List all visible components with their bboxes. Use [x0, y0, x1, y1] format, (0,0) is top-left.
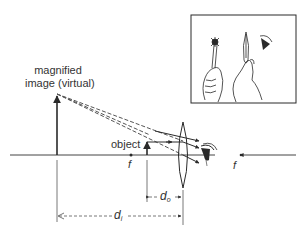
real-rays	[147, 131, 199, 163]
d-i-main: d	[114, 208, 121, 222]
focal-point-right	[240, 154, 243, 157]
focal-point-left-label: f	[128, 159, 131, 170]
magnifying-glass-ray-diagram	[0, 0, 304, 236]
d-o-label: do	[160, 190, 171, 203]
d-i-sub: i	[121, 215, 123, 222]
d-o-main: d	[160, 189, 167, 203]
focal-point-left	[130, 154, 133, 157]
focal-point-right-label: f	[233, 160, 236, 171]
d-i-label: di	[114, 209, 122, 222]
d-o-sub: o	[167, 196, 171, 203]
magnified-label-line2: image (virtual)	[25, 78, 91, 89]
magnified-label-line1: magnified	[25, 65, 91, 76]
object-label: object	[111, 139, 140, 150]
magnified-image-label: magnified image (virtual)	[25, 65, 91, 89]
inset-illustration	[191, 15, 296, 103]
